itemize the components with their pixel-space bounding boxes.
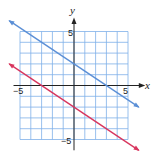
y-min-tick-label: −5 (61, 136, 71, 146)
x-min-tick-label: −5 (13, 86, 23, 96)
coordinate-plane: x y −5 5 5 −5 (0, 0, 158, 162)
x-max-tick-label: 5 (123, 86, 128, 96)
y-max-tick-label: 5 (68, 28, 73, 38)
y-axis-label: y (69, 4, 75, 16)
x-axis-label: x (144, 79, 150, 91)
